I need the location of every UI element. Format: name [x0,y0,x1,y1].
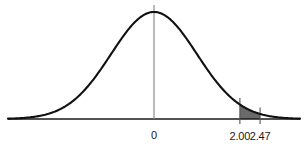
tick-label-zero: 0 [147,129,161,141]
normal-distribution-figure: 0 2.00 2.47 [0,0,307,156]
tick-label-upper-bound: 2.47 [246,130,274,142]
